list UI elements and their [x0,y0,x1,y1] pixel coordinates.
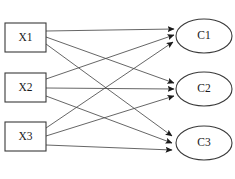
node-x2[interactable]: X2 [5,73,46,102]
nodes-layer: X1X2X3C1C2C3 [5,19,232,160]
edge-x3-to-c1 [46,42,173,128]
node-label-c2: C2 [197,82,211,94]
node-c1[interactable]: C1 [176,19,232,53]
node-c2[interactable]: C2 [176,72,232,106]
edge-x1-to-c3 [46,44,172,136]
edge-x2-to-c1 [46,35,174,79]
edge-x2-to-c2 [46,88,174,89]
node-label-x2: X2 [18,81,32,93]
edge-x3-to-c2 [46,96,174,136]
node-c3[interactable]: C3 [176,126,232,160]
node-x3[interactable]: X3 [5,122,46,151]
node-x1[interactable]: X1 [5,23,46,52]
edge-x2-to-c3 [46,96,172,143]
diagram-canvas: X1X2X3C1C2C3 [0,0,235,179]
figure-caption [0,166,235,175]
node-label-c3: C3 [197,136,211,148]
edge-x1-to-c1 [46,29,174,31]
node-label-c1: C1 [197,29,211,41]
edge-x3-to-c3 [46,145,172,150]
node-label-x3: X3 [18,130,32,142]
edges-layer [46,29,174,150]
bipartite-graph-svg: X1X2X3C1C2C3 [0,0,235,179]
node-label-x1: X1 [18,31,32,43]
edge-x1-to-c2 [46,37,174,83]
